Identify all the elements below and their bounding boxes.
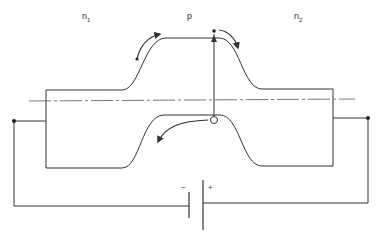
- electron-left-arrow: [137, 34, 160, 59]
- left-terminal-dot: [12, 119, 16, 123]
- electron-right-arrow: [219, 30, 238, 48]
- valence-band-edge: [46, 115, 333, 168]
- hole-circle: [211, 117, 218, 124]
- band-diagram: [0, 0, 379, 238]
- conduction-band-edge: [46, 38, 333, 90]
- electron-left-dot: [135, 57, 138, 60]
- right-terminal-dot: [366, 116, 370, 120]
- fermi-level-line: [29, 99, 355, 101]
- electron-dot: [212, 29, 216, 33]
- hole-flow-arrow: [158, 120, 208, 142]
- right-wire: [203, 118, 368, 203]
